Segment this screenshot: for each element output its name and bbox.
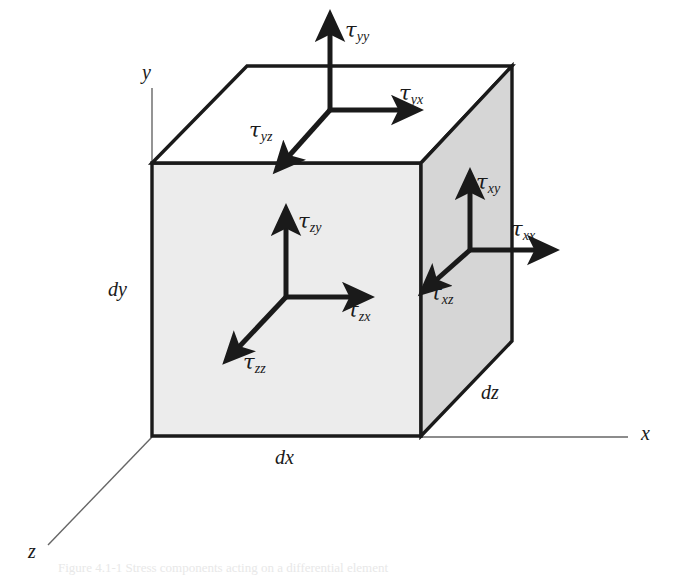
tau-yz-tau-glyph: τ [249,118,261,142]
tau-xy-label: τxy [476,172,500,196]
tau-zz-tau-glyph: τ [243,350,255,374]
tau-yz-subscript: yz [261,129,273,144]
tau-zx-label: τzx [347,300,371,324]
z-axis-label: z [28,541,36,561]
x-axis-label: x [641,423,650,443]
dz-dimension-label: dz [481,382,499,402]
tau-xy-tau-glyph: τ [476,170,488,194]
tau-yy-subscript: yy [357,29,370,44]
figure-caption: Figure 4.1-1 Stress components acting on… [0,560,675,582]
tau-yx-tau-glyph: τ [399,81,411,105]
y-axis-label: y [142,62,151,82]
tau-xz-subscript: xz [442,292,454,307]
tau-yz-label: τyz [249,120,273,144]
differential-cube [152,66,512,436]
stress-element-figure: τyyτyxτyzτzyτzxτzzτxyτxxτxzyxzdxdydz Fig… [0,0,675,582]
tau-zz-subscript: zz [255,361,266,376]
tau-xz-tau-glyph: τ [430,281,442,305]
tau-xy-subscript: xy [488,181,501,196]
tau-xx-subscript: xx [523,228,536,243]
figure-canvas [0,0,675,582]
tau-zy-label: τzy [298,211,322,235]
tau-xx-label: τxx [511,219,535,243]
tau-yx-label: τyx [399,83,423,107]
tau-zz-label: τzz [243,352,266,376]
tau-zy-subscript: zy [310,220,322,235]
tau-xz-label: τxz [430,283,454,307]
dx-dimension-label: dx [275,447,294,467]
tau-zy-tau-glyph: τ [298,209,310,233]
tau-yy-label: τyy [345,20,369,44]
tau-yy-tau-glyph: τ [345,18,357,42]
tau-zx-subscript: zx [359,309,371,324]
tau-xx-tau-glyph: τ [511,217,523,241]
dy-dimension-label: dy [108,279,127,299]
tau-yx-subscript: yx [411,92,424,107]
tau-zx-tau-glyph: τ [347,298,359,322]
z-axis-line [48,437,152,545]
